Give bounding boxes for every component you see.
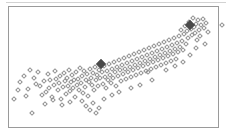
data-point: [72, 94, 78, 100]
data-point: [55, 87, 61, 93]
data-point: [45, 71, 51, 77]
data-point: [41, 78, 47, 84]
data-point: [205, 29, 211, 35]
data-point: [173, 56, 179, 62]
plot-data-area: [0, 0, 232, 138]
data-point: [42, 101, 48, 107]
data-point: [82, 84, 88, 90]
data-point: [101, 96, 107, 102]
data-point: [21, 73, 27, 79]
data-point: [90, 100, 96, 106]
data-point: [67, 99, 73, 105]
data-point: [113, 83, 119, 89]
data-point: [29, 110, 35, 116]
data-point: [96, 105, 102, 111]
data-point: [91, 87, 97, 93]
data-point: [202, 41, 208, 47]
data-point: [180, 59, 186, 65]
data-point: [37, 83, 43, 89]
data-point: [79, 98, 85, 104]
data-point: [25, 86, 31, 92]
data-point: [50, 97, 56, 103]
data-point: [15, 87, 21, 93]
data-point: [183, 41, 189, 47]
data-point: [59, 102, 65, 108]
data-point: [11, 96, 17, 102]
data-point: [172, 63, 178, 69]
data-point: [193, 45, 199, 51]
data-point: [87, 107, 93, 113]
data-point: [187, 52, 193, 58]
data-point: [219, 22, 225, 28]
data-point: [47, 77, 53, 83]
data-point: [163, 67, 169, 73]
data-point: [31, 75, 37, 81]
data-point: [23, 93, 29, 99]
data-point: [17, 79, 23, 85]
data-point: [93, 110, 99, 116]
data-point: [58, 96, 64, 102]
data-point: [35, 69, 41, 75]
data-point: [85, 93, 91, 99]
data-point: [137, 82, 143, 88]
data-point: [149, 77, 155, 83]
data-point: [116, 89, 122, 95]
data-point: [52, 68, 58, 74]
data-point: [103, 85, 109, 91]
data-point: [128, 85, 134, 91]
data-point: [180, 47, 186, 53]
data-point: [27, 67, 33, 73]
scatter-plot-figure: [0, 0, 232, 138]
data-point: [109, 92, 115, 98]
